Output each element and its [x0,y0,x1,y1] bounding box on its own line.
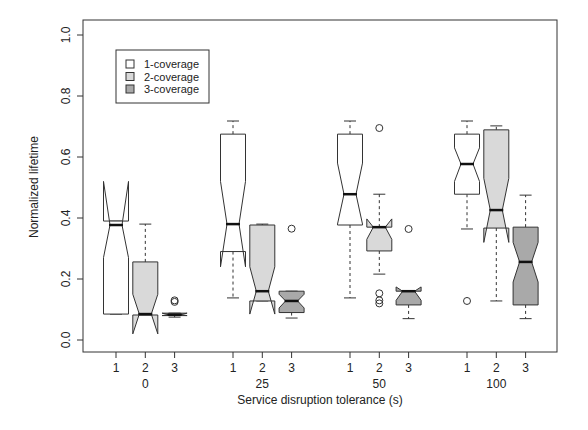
outlier-point [405,225,412,232]
x-tick-label: 3 [405,361,412,375]
x-group-label: 100 [486,377,506,391]
box-1-coverage-0 [104,181,129,314]
legend-label: 2-coverage [144,71,199,83]
x-tick-label: 2 [142,361,149,375]
box-3-coverage-100 [513,195,538,319]
legend-swatch [126,85,134,93]
box-1-coverage-100 [455,121,480,304]
y-axis-label: Normalized lifetime [27,136,41,238]
x-tick-label: 1 [113,361,120,375]
x-tick-label: 2 [376,361,383,375]
legend: 1-coverage2-coverage3-coverage [116,50,209,103]
y-tick-label: 0.8 [59,87,73,104]
legend-swatch [126,60,134,68]
x-axis: 12301232512350123100 [113,352,530,391]
y-axis: 0.00.20.40.60.81.0 [59,26,83,348]
legend-label: 1-coverage [144,58,199,70]
y-tick-label: 0.4 [59,209,73,226]
y-tick-label: 0.6 [59,148,73,165]
x-tick-label: 1 [230,361,237,375]
x-group-label: 50 [373,377,387,391]
box-2-coverage-50 [367,125,392,307]
box-1-coverage-25 [221,121,246,298]
x-group-label: 25 [256,377,270,391]
box-3-coverage-50 [396,225,421,318]
legend-label: 3-coverage [144,83,199,95]
x-tick-label: 3 [288,361,295,375]
x-axis-label: Service disruption tolerance (s) [237,393,402,407]
x-tick-label: 3 [522,361,529,375]
outlier-point [376,125,383,132]
y-tick-label: 0.2 [59,270,73,287]
y-tick-label: 0.0 [59,331,73,348]
x-group-label: 0 [142,377,149,391]
y-tick-label: 1.0 [59,26,73,43]
x-tick-label: 3 [171,361,178,375]
box-2-coverage-25 [250,224,275,314]
x-tick-label: 2 [493,361,500,375]
boxes [104,121,539,334]
x-tick-label: 1 [347,361,354,375]
box-3-coverage-0 [162,297,187,317]
box-2-coverage-0 [133,224,158,334]
outlier-point [376,290,383,297]
box-2-coverage-100 [484,126,509,301]
x-tick-label: 2 [259,361,266,375]
legend-swatch [126,73,134,81]
x-tick-label: 1 [464,361,471,375]
boxplot-chart: 0.00.20.40.60.81.0 12301232512350123100 … [0,0,588,430]
box-1-coverage-50 [338,121,363,298]
box-3-coverage-25 [279,225,304,318]
outlier-point [464,297,471,304]
outlier-point [288,225,295,232]
